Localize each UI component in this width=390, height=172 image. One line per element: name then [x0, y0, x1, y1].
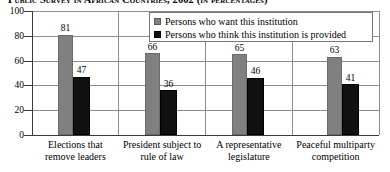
bar-want-0 — [58, 35, 73, 135]
bar-want-3 — [327, 57, 342, 135]
chart-legend: Persons who want this institution Person… — [149, 12, 373, 42]
y-tick-80 — [24, 36, 32, 37]
bar-label-provided-1: 36 — [153, 79, 184, 89]
y-tick-label-60: 60 — [2, 57, 24, 67]
y-tick-60 — [24, 61, 32, 62]
y-tick-40 — [24, 85, 32, 86]
chart-title: Public Survey in African Countries, 2002… — [8, 0, 390, 5]
x-category-0-line2: remove leaders — [32, 151, 119, 163]
bar-label-want-2: 65 — [224, 43, 255, 53]
x-category-3: Peaceful multiparty competition — [292, 139, 379, 172]
y-tick-label-20: 20 — [2, 106, 24, 116]
legend-swatch-provided-icon — [154, 31, 161, 38]
bar-label-want-0: 81 — [50, 23, 81, 33]
bar-label-want-1: 66 — [137, 42, 168, 52]
bar-label-provided-0: 47 — [66, 65, 97, 75]
bar-label-provided-3: 41 — [335, 73, 366, 83]
y-axis-labels: 100 80 60 40 20 0 — [0, 0, 24, 172]
y-tick-label-40: 40 — [2, 81, 24, 91]
y-tick-label-0: 0 — [2, 131, 24, 141]
bar-provided-3 — [342, 84, 359, 135]
x-category-0: Elections that remove leaders — [32, 139, 119, 172]
legend-label-want: Persons who want this institution — [165, 16, 298, 27]
bar-provided-2 — [247, 78, 264, 135]
x-category-1-line1: President subject to — [123, 139, 201, 150]
bar-provided-0 — [73, 77, 90, 135]
bar-provided-1 — [160, 90, 177, 135]
x-category-1-line2: rule of law — [119, 151, 206, 163]
x-category-3-line1: Peaceful multiparty — [296, 139, 375, 150]
x-axis-line — [32, 135, 379, 136]
x-category-1: President subject to rule of law — [119, 139, 206, 172]
bar-want-1 — [145, 53, 160, 135]
y-tick-20 — [24, 110, 32, 111]
y-tick-label-100: 100 — [2, 7, 24, 17]
x-category-2-line2: legislature — [206, 151, 293, 163]
x-category-0-line1: Elections that — [48, 139, 103, 150]
chart-container: Public Survey in African Countries, 2002… — [0, 0, 390, 172]
y-tick-100 — [24, 11, 32, 12]
bar-label-provided-2: 46 — [240, 66, 271, 76]
x-axis-category-labels: Elections that remove leaders President … — [32, 139, 379, 172]
legend-label-provided: Persons who think this institution is pr… — [165, 29, 346, 40]
category-separator-1 — [118, 11, 119, 135]
x-category-3-line2: competition — [292, 151, 379, 163]
x-category-2: A representative legislature — [206, 139, 293, 172]
y-tick-label-80: 80 — [2, 32, 24, 42]
legend-item-provided: Persons who think this institution is pr… — [154, 28, 368, 41]
y-tick-0 — [24, 135, 32, 136]
legend-swatch-want-icon — [154, 18, 161, 25]
legend-item-want: Persons who want this institution — [154, 15, 368, 28]
x-category-2-line1: A representative — [216, 139, 281, 150]
bar-label-want-3: 63 — [319, 45, 350, 55]
plot-right-edge — [379, 11, 380, 135]
